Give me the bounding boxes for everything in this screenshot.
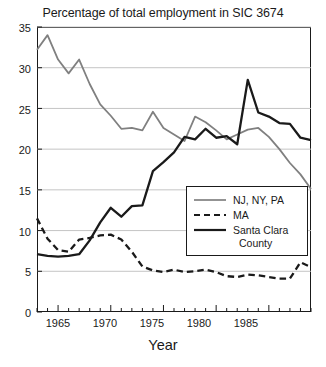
chart-canvas [37, 27, 311, 312]
x-axis-title: Year [0, 337, 326, 353]
legend-line-icon-ma [193, 210, 227, 220]
x-tick-label-1965: 1965 [36, 318, 80, 329]
y-tick-label-5: 5 [0, 267, 31, 278]
x-tick-label-1975: 1975 [130, 318, 174, 329]
legend-item-ma: MA [193, 207, 301, 222]
x-axis-ticks [37, 305, 311, 312]
y-tick-label-15: 15 [0, 186, 31, 197]
x-tick-label-1970: 1970 [83, 318, 127, 329]
series-line-nj-ny-pa [37, 35, 311, 189]
y-tick-label-25: 25 [0, 105, 31, 116]
legend-label-ma: MA [233, 209, 249, 221]
y-tick-label-35: 35 [0, 23, 31, 34]
y-tick-label-0: 0 [0, 308, 31, 319]
legend-label-nj-ny-pa: NJ, NY, PA [233, 194, 284, 206]
chart-legend: NJ, NY, PA MA Santa Clara County [186, 186, 308, 256]
legend-label-county-continuation: County [193, 237, 301, 249]
x-tick-label-1980: 1980 [177, 318, 221, 329]
legend-line-icon-nj-ny-pa [193, 195, 227, 205]
chart-figure: Percentage of total employment in SIC 36… [0, 0, 326, 367]
y-tick-label-30: 30 [0, 64, 31, 75]
legend-item-nj-ny-pa: NJ, NY, PA [193, 192, 301, 207]
legend-label-santa-clara: Santa Clara [233, 224, 288, 236]
y-axis-ticks [37, 27, 42, 312]
y-tick-label-10: 10 [0, 227, 31, 238]
legend-item-santa-clara-county: Santa Clara [193, 222, 301, 237]
legend-line-icon-santa-clara [193, 225, 227, 235]
y-tick-label-20: 20 [0, 145, 31, 156]
x-tick-label-1985: 1985 [224, 318, 268, 329]
